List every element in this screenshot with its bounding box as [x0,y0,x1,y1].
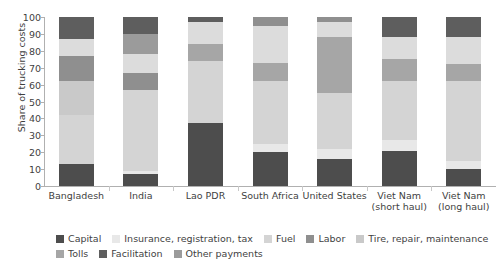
legend-label: Other payments [186,248,263,259]
x-label-line2: (short haul) [367,201,432,212]
chart-legend: CapitalInsurance, registration, taxFuelL… [56,231,496,261]
bar-lao-pdr[interactable] [188,17,223,186]
legend-label: Capital [68,233,101,244]
bar-segment-5[interactable] [382,17,417,37]
legend-item-tire-repair-maintenance[interactable]: Tire, repair, maintenance [356,233,488,244]
legend-label: Labor [318,233,345,244]
bar-segment-0[interactable] [188,123,223,186]
bar-segment-0[interactable] [59,164,94,186]
bar-segment-4[interactable] [253,26,288,63]
bar-segment-5[interactable] [59,17,94,39]
legend-label: Tolls [68,248,88,259]
bar-segment-1[interactable] [446,161,481,169]
x-label-line1: Bangladesh [48,190,104,201]
bar-segment-2[interactable] [382,81,417,140]
x-axis-line [44,186,496,187]
bar-segment-6[interactable] [123,17,158,34]
bar-segment-3[interactable] [382,59,417,81]
legend-row-0: CapitalInsurance, registration, taxFuelL… [56,231,496,246]
legend-item-capital[interactable]: Capital [56,233,101,244]
bar-segment-1[interactable] [188,61,223,124]
x-tick-label-2: Lao PDR [173,190,238,212]
bar-segment-2[interactable] [123,90,158,171]
x-label-line1: Viet Nam [377,190,421,201]
bar-segment-1[interactable] [59,115,94,164]
legend-swatch-icon [306,235,314,243]
bar-slot-4 [302,17,367,186]
bar-group [44,17,496,186]
legend-swatch-icon [264,235,272,243]
legend-swatch-icon [56,235,64,243]
bar-segment-2[interactable] [317,93,352,149]
legend-item-tolls[interactable]: Tolls [56,248,88,259]
bar-segment-5[interactable] [123,34,158,54]
legend-swatch-icon [56,250,64,258]
bar-united-states[interactable] [317,17,352,186]
bar-segment-0[interactable] [382,151,417,186]
bar-segment-5[interactable] [253,17,288,25]
bar-segment-3[interactable] [188,22,223,44]
x-tick-label-3: South Africa [238,190,303,212]
x-tick-label-4: United States [302,190,367,212]
legend-label: Tire, repair, maintenance [368,233,488,244]
x-tick-label-0: Bangladesh [44,190,109,212]
bar-segment-1[interactable] [317,149,352,159]
bar-segment-2[interactable] [188,44,223,61]
bar-slot-3 [238,17,303,186]
x-label-line1: Viet Nam [442,190,486,201]
legend-label: Insurance, registration, tax [124,233,253,244]
bar-slot-6 [431,17,496,186]
x-label-line1: India [129,190,152,201]
bar-bangladesh[interactable] [59,17,94,186]
bar-segment-3[interactable] [253,63,288,82]
bar-segment-4[interactable] [382,37,417,59]
bar-slot-2 [173,17,238,186]
x-label-line1: South Africa [241,190,299,201]
bar-segment-0[interactable] [123,174,158,186]
bar-south-africa[interactable] [253,17,288,186]
bar-segment-0[interactable] [317,159,352,186]
bar-segment-2[interactable] [59,81,94,115]
x-label-line2: (long haul) [431,201,496,212]
bar-segment-3[interactable] [317,37,352,93]
legend-label: Fuel [276,233,295,244]
x-axis-labels: BangladeshIndiaLao PDRSouth AfricaUnited… [44,190,496,212]
bar-segment-2[interactable] [253,81,288,144]
bar-segment-4[interactable] [446,37,481,64]
bar-india[interactable] [123,17,158,186]
y-tick-label-100: 100 [23,12,41,23]
legend-swatch-icon [112,235,120,243]
bar-segment-4[interactable] [59,39,94,56]
legend-item-other-payments[interactable]: Other payments [174,248,263,259]
bar-segment-5[interactable] [446,17,481,37]
bar-segment-0[interactable] [446,169,481,186]
legend-label: Facilitation [111,248,162,259]
legend-item-insurance-registration-tax[interactable]: Insurance, registration, tax [112,233,253,244]
x-tick-label-6: Viet Nam(long haul) [431,190,496,212]
x-label-line1: Lao PDR [186,190,226,201]
legend-swatch-icon [356,235,364,243]
legend-row-1: TollsFacilitationOther payments [56,246,496,261]
bar-segment-4[interactable] [123,54,158,73]
legend-swatch-icon [174,250,182,258]
bar-viet-nam-short-haul[interactable] [382,17,417,186]
bar-segment-1[interactable] [253,144,288,152]
y-tick-mark-0 [40,186,44,187]
bar-viet-nam-long-haul[interactable] [446,17,481,186]
bar-segment-3[interactable] [59,56,94,81]
bar-segment-3[interactable] [123,73,158,90]
legend-swatch-icon [99,250,107,258]
bar-segment-2[interactable] [446,81,481,160]
x-tick-label-1: India [109,190,174,212]
bar-slot-0 [44,17,109,186]
bar-segment-4[interactable] [317,22,352,37]
bar-segment-0[interactable] [253,152,288,186]
x-label-line1: United States [302,190,366,201]
bar-segment-1[interactable] [382,140,417,150]
legend-item-facilitation[interactable]: Facilitation [99,248,162,259]
bar-segment-3[interactable] [446,64,481,81]
plot-area: 0102030405060708090100 [44,17,496,186]
y-axis-title: Share of trucking costs [16,3,27,153]
legend-item-fuel[interactable]: Fuel [264,233,295,244]
legend-item-labor[interactable]: Labor [306,233,345,244]
